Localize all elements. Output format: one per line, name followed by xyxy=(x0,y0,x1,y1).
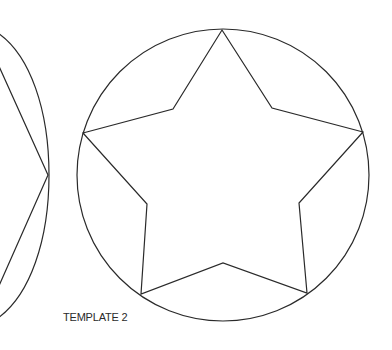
template-star-outline xyxy=(83,30,363,294)
template-caption: TEMPLATE 2 xyxy=(63,311,127,323)
template-2 xyxy=(77,29,369,321)
template-drawing xyxy=(0,0,392,350)
partial-star-edge xyxy=(0,64,48,288)
partial-template-left xyxy=(0,33,49,318)
partial-ellipse-outline xyxy=(0,33,49,318)
